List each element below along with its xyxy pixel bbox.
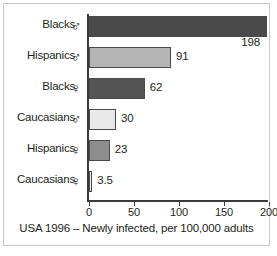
bar-row: Hispanics♀23 <box>4 140 271 161</box>
bar-row: Hispanics♂91 <box>4 47 271 68</box>
x-axis-line <box>87 200 268 202</box>
chart-caption: USA 1996 – Newly infected, per 100,000 a… <box>4 222 269 234</box>
bar-value-label: 30 <box>121 112 134 124</box>
x-tick-label-50: 50 <box>114 206 154 218</box>
female-symbol-icon: ♀ <box>68 140 84 161</box>
category-label: Caucasians <box>17 111 75 123</box>
bar <box>89 109 116 130</box>
x-tick-label-0: 0 <box>69 206 109 218</box>
bar-row: Blacks♂198 <box>4 16 271 37</box>
x-tick-label-100: 100 <box>159 206 199 218</box>
male-symbol-icon: ♂ <box>68 109 84 130</box>
male-symbol-icon: ♂ <box>68 47 84 68</box>
bar <box>89 140 110 161</box>
category-label: Caucasians <box>17 173 75 185</box>
bar-value-label: 62 <box>150 81 163 93</box>
female-symbol-icon: ♀ <box>68 171 84 192</box>
bar-value-label: 91 <box>176 50 189 62</box>
bar-row: Blacks♀62 <box>4 78 271 99</box>
x-tick-label-200: 200 <box>249 206 277 218</box>
bar <box>89 47 171 68</box>
chart-figure: 050100150200 Blacks♂198Hispanics♂91Black… <box>0 0 277 256</box>
bar-row: Caucasians♀3.5 <box>4 171 271 192</box>
chart-frame: 050100150200 Blacks♂198Hispanics♂91Black… <box>3 3 270 246</box>
bar-row: Caucasians♂30 <box>4 109 271 130</box>
bar <box>89 171 92 192</box>
male-symbol-icon: ♂ <box>68 16 84 37</box>
plot-area: 050100150200 Blacks♂198Hispanics♂91Black… <box>4 4 271 247</box>
x-tick-label-150: 150 <box>204 206 244 218</box>
bar-value-label: 23 <box>115 143 128 155</box>
bar <box>89 16 267 37</box>
bar-value-label: 3.5 <box>97 174 113 186</box>
bar <box>89 78 145 99</box>
female-symbol-icon: ♀ <box>68 78 84 99</box>
